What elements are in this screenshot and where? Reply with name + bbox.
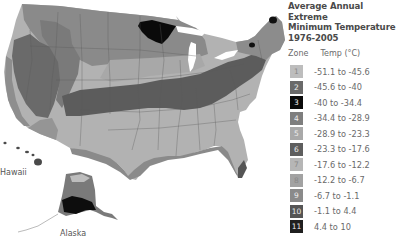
legend-header: Zone Temp (°C) — [288, 49, 399, 60]
legend-row-zone-2: 2-45.6 to -40 — [288, 80, 399, 96]
legend-range: -1.1 to 4.4 — [314, 206, 356, 216]
hawaii-label: Hawaii — [0, 168, 27, 177]
legend-swatch: 8 — [290, 174, 303, 187]
legend-row-zone-4: 4-34.4 to -28.9 — [288, 111, 399, 127]
legend-row-zone-10: 10-1.1 to 4.4 — [288, 204, 399, 220]
zone-3-adirondacks — [249, 43, 255, 48]
legend-title-line-2: Minimum Temperature — [288, 22, 399, 33]
legend-swatch: 7 — [290, 158, 303, 171]
legend-swatch: 4 — [290, 112, 303, 125]
legend-row-zone-11: 114.4 to 10 — [288, 219, 399, 235]
legend-swatch: 10 — [290, 205, 303, 218]
legend-range: -17.6 to -12.2 — [314, 160, 370, 170]
legend-row-zone-5: 5-28.9 to -23.3 — [288, 126, 399, 142]
legend-swatch: 11 — [290, 220, 303, 233]
alaska — [18, 172, 118, 232]
alaska-label: Alaska — [60, 229, 86, 238]
legend-row-zone-7: 7-17.6 to -12.2 — [288, 157, 399, 173]
legend-title-line-3: 1976-2005 — [288, 33, 399, 44]
legend-range: -12.2 to -6.7 — [314, 175, 365, 185]
legend-range: -40 to -34.4 — [314, 98, 362, 108]
legend-row-zone-9: 9-6.7 to -1.1 — [288, 188, 399, 204]
legend-swatch: 2 — [290, 81, 303, 94]
legend-swatch: 3 — [290, 96, 303, 109]
legend-range: -34.4 to -28.9 — [314, 113, 370, 123]
legend-range: -6.7 to -1.1 — [314, 191, 359, 201]
legend-row-zone-6: 6-23.3 to -17.6 — [288, 142, 399, 158]
legend-header-zone: Zone — [288, 49, 318, 58]
legend-range: -51.1 to -45.6 — [314, 67, 370, 77]
legend-row-zone-3: 3-40 to -34.4 — [288, 95, 399, 111]
legend-range: 4.4 to 10 — [314, 222, 351, 232]
legend-swatch: 9 — [290, 189, 303, 202]
legend-row-zone-1: 1-51.1 to -45.6 — [288, 64, 399, 80]
legend-swatch: 1 — [290, 65, 303, 78]
legend-header-temp: Temp (°C) — [321, 49, 361, 58]
legend-swatch: 6 — [290, 143, 303, 156]
legend-rows: 1-51.1 to -45.62-45.6 to -403-40 to -34.… — [288, 64, 399, 235]
legend-range: -28.9 to -23.3 — [314, 129, 370, 139]
legend-title: Average Annual Extreme Minimum Temperatu… — [288, 1, 399, 43]
legend: Average Annual Extreme Minimum Temperatu… — [288, 0, 399, 235]
legend-range: -23.3 to -17.6 — [314, 144, 370, 154]
legend-swatch: 5 — [290, 127, 303, 140]
legend-title-line-1: Average Annual Extreme — [288, 1, 399, 22]
zone-3-maine — [269, 17, 277, 24]
legend-row-zone-8: 8-12.2 to -6.7 — [288, 173, 399, 189]
legend-range: -45.6 to -40 — [314, 82, 362, 92]
hawaii-islands — [3, 142, 42, 166]
